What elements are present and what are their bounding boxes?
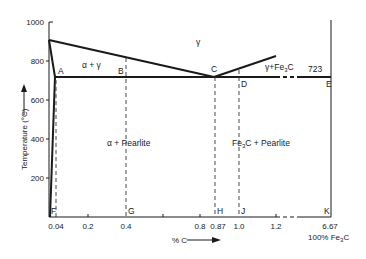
y-axis-arrow-icon (21, 84, 27, 92)
x-tick-0.04: 0.04 (48, 222, 64, 231)
point-E: E (326, 79, 332, 89)
x-tick-6.67: 6.67 (322, 222, 338, 231)
x-axis-label: % C (172, 236, 187, 245)
y-axis-label: Temperature (°C) (20, 108, 29, 170)
point-K: K (324, 206, 330, 216)
x-tick-0.2: 0.2 (82, 222, 94, 231)
x-tick-0.87: 0.87 (210, 222, 226, 231)
y-tick-1000: 1000 (26, 18, 44, 27)
y-tick-800: 800 (31, 57, 45, 66)
point-F: F (51, 206, 56, 216)
x-tick-1.0: 1.0 (233, 222, 245, 231)
region-gamma: γ (196, 37, 201, 47)
point-J: J (241, 206, 245, 216)
eutectoid-temp-label: 723 (308, 64, 322, 74)
alpha-boundary (49, 40, 55, 77)
phase-diagram: A B C D E F G H J K γ α + γ γ+Fe3C 723 α… (0, 0, 366, 259)
y-tick-400: 400 (31, 135, 45, 144)
x-tick-0.4: 0.4 (120, 222, 132, 231)
region-alpha-gamma: α + γ (82, 60, 102, 70)
x-tick-0.8: 0.8 (194, 222, 206, 231)
point-C: C (211, 64, 217, 74)
region-fe3c-pearlite: Fe3C + Pearlite (232, 138, 290, 149)
a3-line (49, 40, 214, 77)
point-A: A (58, 66, 64, 76)
point-G: G (128, 206, 135, 216)
x-tick-1.2: 1.2 (270, 222, 282, 231)
x-axis-arrow-icon (212, 237, 221, 243)
y-tick-200: 200 (31, 174, 45, 183)
x-end-label: 100% Fe3C (308, 233, 349, 243)
point-B: B (118, 66, 124, 76)
region-alpha-pearlite: α + Pearlite (107, 138, 151, 148)
point-H: H (217, 206, 223, 216)
region-gamma-fe3c: γ+Fe3C (265, 62, 294, 73)
point-D: D (241, 79, 247, 89)
y-tick-600: 600 (31, 96, 45, 105)
solvus-line (50, 77, 55, 217)
